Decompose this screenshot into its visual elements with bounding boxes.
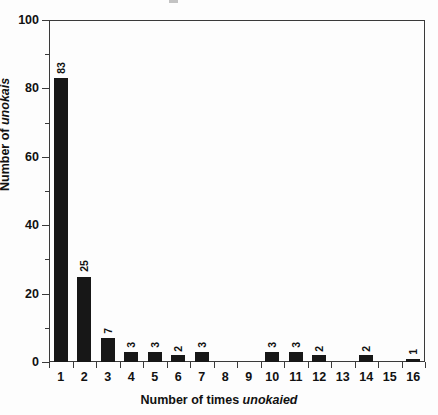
x-axis-tick <box>378 362 379 368</box>
x-axis-tick-label: 8 <box>222 370 229 384</box>
bar-value-label: 3 <box>196 342 208 348</box>
x-axis-tick-label: 16 <box>406 370 420 384</box>
bar-slot: 2 <box>308 20 332 362</box>
x-axis-tick-label: 12 <box>312 370 326 384</box>
x-axis-tick <box>355 362 356 368</box>
x-axis-tick <box>120 362 121 368</box>
bar-slot: 1 <box>402 20 426 362</box>
y-axis-tick-label: 100 <box>18 13 39 27</box>
x-axis-tick <box>237 362 238 368</box>
bar-value-label: 2 <box>313 346 325 352</box>
y-axis-major-tick <box>42 294 49 295</box>
y-axis-major-tick <box>42 88 49 89</box>
x-axis-tick <box>425 362 426 368</box>
x-axis-title: Number of times unokaied <box>0 393 438 407</box>
bar[interactable] <box>289 352 303 362</box>
x-axis-tick <box>331 362 332 368</box>
x-axis-tick-label: 15 <box>383 370 397 384</box>
bar[interactable] <box>171 355 185 362</box>
bar-value-label: 7 <box>102 329 114 335</box>
y-axis-major-tick <box>42 225 49 226</box>
bar-value-label: 3 <box>266 342 278 348</box>
x-axis-tick-label: 6 <box>175 370 182 384</box>
x-axis-tick <box>402 362 403 368</box>
bar-slot: 3 <box>261 20 285 362</box>
x-axis-tick <box>73 362 74 368</box>
x-axis-tick <box>167 362 168 368</box>
bar-slot <box>331 20 355 362</box>
bar-value-label: 3 <box>125 342 137 348</box>
x-axis-tick-label: 9 <box>245 370 252 384</box>
x-axis-title-prefix: Number of times <box>141 393 243 407</box>
x-axis-tick-label: 3 <box>104 370 111 384</box>
bar-slot: 3 <box>120 20 144 362</box>
bar[interactable] <box>101 338 115 362</box>
bar-chart-figure: Number of unokais 020406080100 832573323… <box>0 0 438 415</box>
x-axis-tick <box>308 362 309 368</box>
x-axis-tick-label: 7 <box>198 370 205 384</box>
x-axis-tick-label: 5 <box>151 370 158 384</box>
x-axis-tick-label: 11 <box>289 370 302 384</box>
y-axis-tick-label: 20 <box>25 287 39 301</box>
bar-slot: 3 <box>284 20 308 362</box>
x-axis-tick <box>214 362 215 368</box>
bar-slot: 83 <box>49 20 73 362</box>
x-axis-tick-label: 1 <box>57 370 64 384</box>
bar-slot: 25 <box>73 20 97 362</box>
y-axis-major-tick <box>42 157 49 158</box>
x-axis-tick <box>190 362 191 368</box>
x-axis-tick <box>96 362 97 368</box>
bar[interactable] <box>148 352 162 362</box>
bar[interactable] <box>359 355 373 362</box>
y-axis-tick-label: 60 <box>25 150 39 164</box>
bars-layer: 83257332333221 <box>49 20 425 362</box>
bar-slot: 3 <box>143 20 167 362</box>
bar[interactable] <box>54 78 68 362</box>
x-axis-tick-label: 2 <box>81 370 88 384</box>
bar[interactable] <box>312 355 326 362</box>
y-axis-major-tick <box>42 20 49 21</box>
bar-value-label: 2 <box>360 346 372 352</box>
bar-value-label: 3 <box>149 342 161 348</box>
x-axis-tick <box>49 362 50 368</box>
bar-slot <box>378 20 402 362</box>
bar-slot: 3 <box>190 20 214 362</box>
bar[interactable] <box>265 352 279 362</box>
x-axis-tick-labels: 12345678910111213141516 <box>49 370 425 388</box>
x-axis-tick <box>261 362 262 368</box>
scan-artifact <box>169 0 178 3</box>
bar[interactable] <box>77 277 91 363</box>
x-axis-tick-label: 10 <box>265 370 279 384</box>
y-axis-tick-label: 0 <box>32 355 39 369</box>
bar-value-label: 3 <box>290 342 302 348</box>
bar-slot: 2 <box>355 20 379 362</box>
x-axis-tick-label: 13 <box>336 370 350 384</box>
y-axis-tick-label: 80 <box>25 81 39 95</box>
bar[interactable] <box>124 352 138 362</box>
x-axis-title-emphasis: unokaied <box>243 393 298 407</box>
y-axis: 020406080100 <box>0 0 49 415</box>
y-axis-tick-label: 40 <box>25 218 39 232</box>
y-axis-major-tick <box>42 362 49 363</box>
x-axis-tick-label: 4 <box>128 370 135 384</box>
bar-slot: 7 <box>96 20 120 362</box>
bar-slot <box>237 20 261 362</box>
bar-value-label: 25 <box>78 261 90 272</box>
bar-value-label: 2 <box>172 346 184 352</box>
bar-value-label: 83 <box>55 62 67 73</box>
x-axis-tick-label: 14 <box>359 370 373 384</box>
bar-value-label: 1 <box>407 349 419 355</box>
bar-slot <box>214 20 238 362</box>
x-axis-tick <box>284 362 285 368</box>
bar[interactable] <box>195 352 209 362</box>
bar-slot: 2 <box>167 20 191 362</box>
x-axis-tick <box>143 362 144 368</box>
